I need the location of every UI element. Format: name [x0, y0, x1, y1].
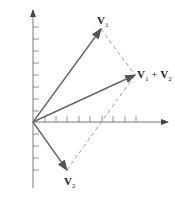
- dashed-v1-to-sum: [101, 29, 135, 75]
- vector-v1: [33, 29, 101, 122]
- y-axis-ticks: [33, 27, 39, 170]
- label-v1: V1: [97, 14, 108, 29]
- vector-diagram: V1 V1 + V2 V2: [0, 0, 175, 197]
- label-v2: V2: [64, 175, 75, 190]
- diagram-canvas: [0, 0, 175, 197]
- x-axis-ticks: [45, 116, 136, 122]
- vector-sum: [33, 75, 135, 122]
- label-v1-plus-v2: V1 + V2: [137, 68, 172, 83]
